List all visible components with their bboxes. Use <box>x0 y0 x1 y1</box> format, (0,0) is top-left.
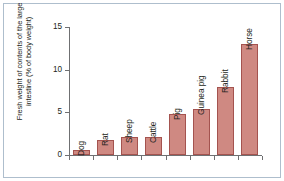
x-tick-mark <box>190 156 191 160</box>
y-tick-label: 10 <box>44 64 62 73</box>
bar-rabbit <box>217 87 234 155</box>
x-tick-mark <box>214 156 215 160</box>
bar-guinea-pig <box>193 109 210 155</box>
bar-horse <box>241 44 258 155</box>
y-tick-mark <box>65 27 69 28</box>
bar-label-guinea-pig: Guinea pig <box>196 75 206 115</box>
y-axis-line <box>69 27 70 156</box>
y-tick-mark <box>65 112 69 113</box>
x-tick-mark <box>93 156 94 160</box>
bar-pig <box>169 114 186 155</box>
x-tick-mark <box>117 156 118 160</box>
bar-label-dog: Dog <box>76 141 86 156</box>
x-tick-mark <box>262 156 263 160</box>
y-tick-label: 5 <box>44 107 62 116</box>
bar-label-cattle: Cattle <box>148 122 158 143</box>
bar-label-horse: Horse <box>244 28 254 50</box>
bar-label-sheep: Sheep <box>124 119 134 143</box>
y-tick-label: 15 <box>44 22 62 31</box>
x-tick-mark <box>166 156 167 160</box>
y-axis-label: Fresh weight of contents of the large in… <box>15 0 34 137</box>
bar-label-pig: Pig <box>172 108 182 120</box>
y-tick-mark <box>65 70 69 71</box>
bar-label-rabbit: Rabbit <box>220 69 230 93</box>
x-tick-mark <box>141 156 142 160</box>
chart-plot-area: Fresh weight of contents of the large in… <box>0 0 284 181</box>
y-tick-label: 0 <box>44 150 62 159</box>
bar-label-rat: Rat <box>100 133 110 146</box>
x-tick-mark <box>238 156 239 160</box>
figure-container: Fresh weight of contents of the large in… <box>0 0 284 181</box>
x-tick-mark <box>69 156 70 160</box>
